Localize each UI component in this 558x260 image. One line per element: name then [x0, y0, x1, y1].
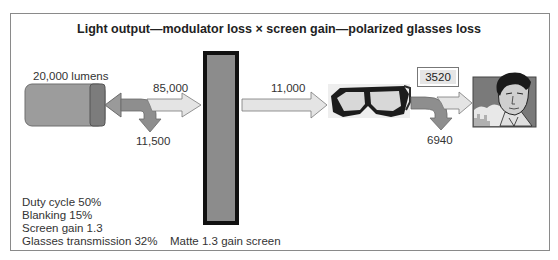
polarized-glasses-icon — [328, 84, 410, 118]
flow-label-85000: 85,000 — [153, 82, 188, 94]
light-arrow-to-glasses — [242, 92, 327, 118]
screen-label: Matte 1.3 gain screen — [170, 235, 281, 247]
projector-lumens-label: 20,000 lumens — [33, 70, 108, 82]
viewer-face-icon — [473, 72, 536, 127]
note-screen-gain: Screen gain 1.3 — [22, 222, 158, 235]
projector-icon — [25, 84, 121, 126]
flow-label-11500: 11,500 — [136, 135, 170, 147]
note-blanking: Blanking 15% — [22, 209, 158, 222]
note-duty-cycle: Duty cycle 50% — [22, 196, 158, 209]
note-glasses-transmission: Glasses transmission 32% — [22, 235, 158, 248]
parameters-notes: Duty cycle 50% Blanking 15% Screen gain … — [22, 196, 158, 248]
flow-label-6940: 6940 — [427, 134, 453, 146]
flow-label-3520: 3520 — [417, 67, 459, 87]
flow-label-11000: 11,000 — [271, 82, 305, 94]
screen-icon — [203, 51, 239, 225]
